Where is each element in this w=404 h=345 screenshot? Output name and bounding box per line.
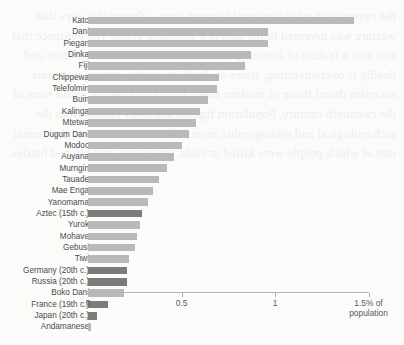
bar-row: Andamanese [0, 321, 404, 332]
x-axis-tick-label: 1 [250, 298, 300, 308]
bar-row: Telefolmin [0, 83, 404, 94]
bar [88, 85, 217, 93]
bar-row: Aztec (15th c.) [0, 208, 404, 219]
bar-category-label: Yanomama [0, 197, 89, 208]
bar-row: Yanomama [0, 197, 404, 208]
bar-row: Dani [0, 26, 404, 37]
bar [88, 312, 97, 320]
bar-row: Mohave [0, 231, 404, 242]
bar-row: Germany (20th c.) [0, 265, 404, 276]
bar [88, 221, 140, 229]
bar-category-label: Auyana [0, 151, 89, 162]
x-axis-unit-label-line1: 1.5% of [329, 298, 404, 308]
bar-row: Piegan [0, 38, 404, 49]
x-axis-unit-label-line2: population [329, 308, 404, 318]
bar-row: Chippewa [0, 72, 404, 83]
bar-row: Russia (20th c.) [0, 276, 404, 287]
bar [88, 28, 268, 36]
bar-row: Kalinga [0, 106, 404, 117]
bar-row: Modoc [0, 140, 404, 151]
bar-chart-figure: KatoDaniPieganDinkaFijiChippewaTelefolmi… [0, 0, 404, 345]
bar-row: Buin [0, 94, 404, 105]
bar [88, 51, 251, 59]
bar-category-label: Kato [0, 15, 89, 26]
bar [88, 153, 174, 161]
bar-category-label: Gebusi [0, 242, 89, 253]
bar-row: Dugum Dani [0, 129, 404, 140]
bar [88, 267, 127, 275]
bar-category-label: Japan (20th c.) [0, 310, 89, 321]
bar-category-label: Modoc [0, 140, 89, 151]
bar [88, 130, 189, 138]
bar [88, 323, 91, 331]
bar-category-label: Mtetwa [0, 117, 89, 128]
bar-row: Mae Enga [0, 185, 404, 196]
bar [88, 244, 135, 252]
bar-category-label: Andamanese [0, 321, 89, 332]
bar-category-label: Mohave [0, 231, 89, 242]
bar-category-label: Dugum Dani [0, 129, 89, 140]
bar [88, 278, 127, 286]
bar-category-label: Fiji [0, 60, 89, 71]
bar-row: Murngin [0, 163, 404, 174]
bar-row: Tiwi [0, 253, 404, 264]
bar [88, 210, 142, 218]
bar-row: Mtetwa [0, 117, 404, 128]
bar [88, 62, 245, 70]
bar-category-label: Kalinga [0, 106, 89, 117]
bar-category-label: Tiwi [0, 253, 89, 264]
x-axis-tick-label: 0 [63, 298, 113, 308]
bar [88, 17, 354, 25]
bar [88, 142, 182, 150]
bar-category-label: Aztec (15th c.) [0, 208, 89, 219]
bar [88, 233, 137, 241]
x-axis-line [88, 292, 369, 293]
bar-category-label: Telefolmin [0, 83, 89, 94]
bar-row: Dinka [0, 49, 404, 60]
bar-category-label: Mae Enga [0, 185, 89, 196]
bar [88, 74, 219, 82]
bar [88, 289, 124, 297]
bar-row: Yurok [0, 219, 404, 230]
bar [88, 164, 167, 172]
bar-category-label: Yurok [0, 219, 89, 230]
bar-category-label: Chippewa [0, 72, 89, 83]
bar [88, 176, 159, 184]
bar-row: Kato [0, 15, 404, 26]
bar [88, 40, 268, 48]
bar [88, 96, 208, 104]
bar [88, 198, 148, 206]
bar-row: Gebusi [0, 242, 404, 253]
x-axis-tick [275, 293, 276, 297]
bar-category-label: Buin [0, 94, 89, 105]
x-axis-tick-label: 0.5 [157, 298, 207, 308]
x-axis-tick [369, 293, 370, 297]
bar-category-label: Russia (20th c.) [0, 276, 89, 287]
bar-row: Fiji [0, 60, 404, 71]
chart-plot-area: KatoDaniPieganDinkaFijiChippewaTelefolmi… [0, 0, 404, 345]
bar-category-label: Dani [0, 26, 89, 37]
x-axis-unit-label: 1.5% ofpopulation [329, 298, 404, 318]
bar [88, 108, 200, 116]
bar-category-label: Piegan [0, 38, 89, 49]
bar [88, 119, 196, 127]
bar [88, 187, 153, 195]
bar-category-label: Murngin [0, 163, 89, 174]
bar-category-label: Germany (20th c.) [0, 265, 89, 276]
bar-category-label: Tauade [0, 174, 89, 185]
bar [88, 255, 129, 263]
x-axis-tick [88, 293, 89, 297]
bar-row: Auyana [0, 151, 404, 162]
bar-category-label: Dinka [0, 49, 89, 60]
bar-row: Tauade [0, 174, 404, 185]
x-axis-tick [182, 293, 183, 297]
